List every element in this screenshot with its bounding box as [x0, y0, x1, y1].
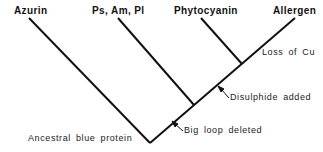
tree-lines [0, 0, 323, 152]
leaf-label-azurin: Azurin [14, 6, 48, 16]
leaf-label-ps-am-pl: Ps, Am, Pl [92, 6, 145, 16]
leaf-label-phytocyanin: Phytocyanin [174, 6, 238, 16]
event-loss-of-cu: Loss of Cu [262, 48, 315, 57]
event-big-loop-deleted: Big loop deleted [184, 126, 262, 135]
leaf-label-allergen: Allergen [273, 6, 316, 16]
event-disulphide-added: Disulphide added [230, 93, 311, 102]
branch-phytocyanin [201, 18, 242, 64]
branch-ps-am-pl [118, 18, 194, 105]
branch-azurin [29, 18, 150, 143]
root-label: Ancestral blue protein [28, 134, 132, 143]
